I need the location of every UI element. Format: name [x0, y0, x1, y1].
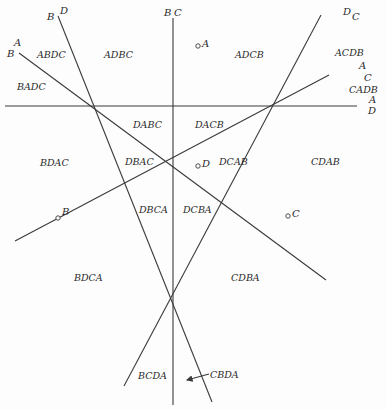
region-label-adcb: ADCB	[234, 49, 264, 60]
arrangement-diagram: ADBC BDBCDCABACAD ABDCADBCADCBACDBBADCCA…	[0, 0, 387, 410]
line-end-labels: BDBCDCABACAD	[6, 5, 376, 116]
region-label-cdab: CDAB	[311, 156, 340, 167]
line-end-label: C	[174, 7, 182, 18]
line-end-label: B	[6, 48, 14, 59]
region-label-cbda: CBDA	[210, 369, 239, 380]
line-end-label: D	[367, 105, 376, 116]
point-b-marker	[56, 216, 60, 220]
region-label-bdac: BDAC	[39, 157, 69, 168]
point-d-label: D	[201, 158, 210, 169]
region-label-dacb: DACB	[194, 119, 224, 130]
region-label-cdba: CDBA	[231, 272, 260, 283]
callout-arrow	[187, 374, 209, 380]
region-label-adbc: ADBC	[103, 49, 134, 60]
region-label-badc: BADC	[16, 81, 46, 92]
region-label-dcba: DCBA	[182, 204, 212, 215]
line-end-label: C	[352, 11, 360, 22]
point-b-label: B	[61, 206, 69, 217]
region-label-dabc: DABC	[132, 119, 163, 130]
line-end-label: A	[13, 37, 21, 48]
point-d-marker	[196, 164, 200, 168]
line-end-label: B	[163, 7, 171, 18]
region-label-dbac: DBAC	[124, 156, 154, 167]
line-dc	[124, 15, 321, 386]
point-a-label: A	[201, 38, 209, 49]
line-end-label: B	[46, 11, 54, 22]
region-label-dbca: DBCA	[138, 204, 168, 215]
region-labels: ABDCADBCADCBACDBBADCCADBDABCDACBBDACDBAC…	[16, 47, 378, 381]
line-end-label: C	[364, 72, 372, 83]
region-label-bdca: BDCA	[73, 272, 103, 283]
line-end-label: D	[59, 5, 68, 16]
sample-points: ADBC	[56, 38, 300, 220]
hyperplane-lines	[5, 15, 357, 405]
point-a-marker	[196, 44, 200, 48]
region-label-dcab: DCAB	[218, 156, 248, 167]
point-c-marker	[286, 214, 290, 218]
region-label-cadb: CADB	[349, 84, 378, 95]
point-c-label: C	[292, 208, 300, 219]
line-end-label: D	[342, 6, 351, 17]
region-label-acdb: ACDB	[334, 47, 364, 58]
line-end-label: A	[358, 60, 366, 71]
region-label-abdc: ABDC	[36, 49, 66, 60]
diagram-canvas: ADBC BDBCDCABACAD ABDCADBCADCBACDBBADCCA…	[0, 0, 387, 410]
region-label-bcda: BCDA	[137, 370, 167, 381]
line-end-label: A	[368, 94, 376, 105]
arrow-icon	[187, 374, 209, 380]
